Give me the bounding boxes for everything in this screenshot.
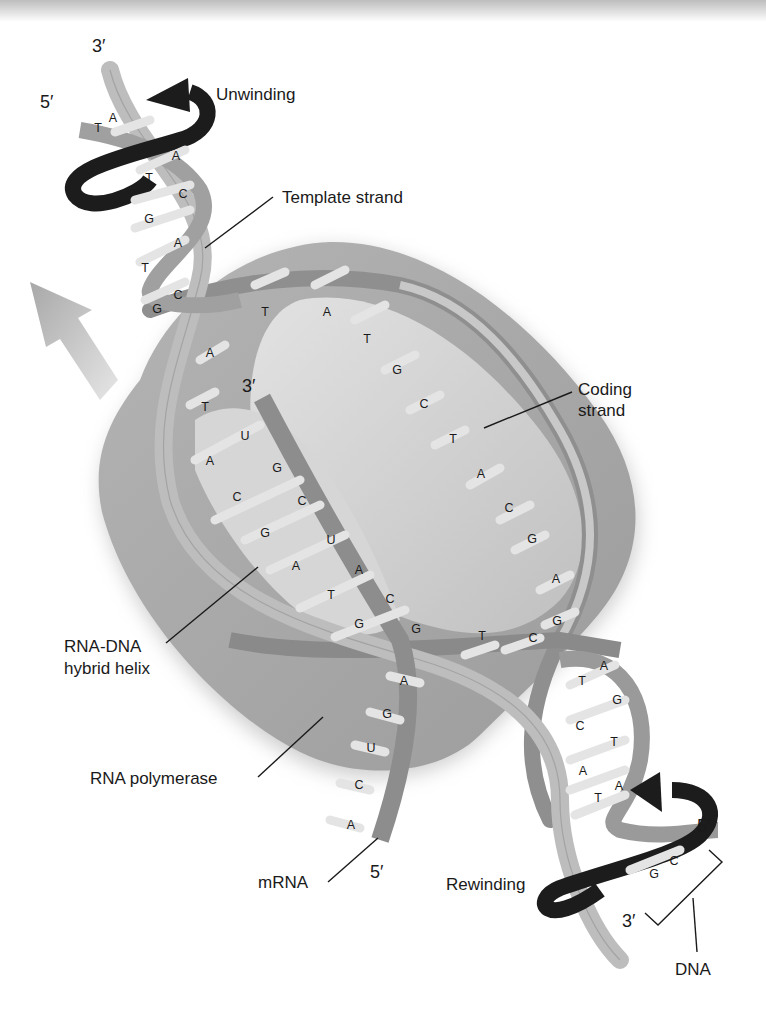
top-5prime-label: 5′ xyxy=(40,92,54,112)
svg-text:G: G xyxy=(272,461,282,475)
svg-text:T: T xyxy=(594,791,602,805)
svg-text:A: A xyxy=(109,111,118,125)
svg-text:C: C xyxy=(354,778,363,792)
svg-text:A: A xyxy=(172,149,181,163)
svg-text:G: G xyxy=(392,363,402,377)
unwinding-label: Unwinding xyxy=(216,85,295,104)
svg-text:U: U xyxy=(366,741,375,755)
svg-text:T: T xyxy=(449,432,457,446)
svg-text:A: A xyxy=(552,572,561,586)
svg-text:T: T xyxy=(610,735,618,749)
svg-text:T: T xyxy=(141,261,149,275)
svg-text:A: A xyxy=(400,674,409,688)
mrna-5prime-label: 5′ xyxy=(370,862,384,882)
svg-text:C: C xyxy=(385,592,394,606)
svg-text:G: G xyxy=(649,867,659,881)
svg-text:A: A xyxy=(477,467,486,481)
svg-text:G: G xyxy=(382,707,392,721)
svg-text:C: C xyxy=(504,501,513,515)
svg-text:G: G xyxy=(144,212,154,226)
coding-bottom-base: T xyxy=(478,629,486,643)
svg-text:G: G xyxy=(612,693,622,707)
svg-text:G: G xyxy=(527,532,537,546)
svg-text:C: C xyxy=(419,397,428,411)
rna-dna-hybrid-label-line2: hybrid helix xyxy=(64,659,150,678)
svg-text:A: A xyxy=(615,779,624,793)
svg-text:A: A xyxy=(206,346,215,360)
svg-text:A: A xyxy=(600,659,609,673)
template-strand-label: Template strand xyxy=(282,188,403,207)
svg-text:U: U xyxy=(240,429,249,443)
svg-text:G: G xyxy=(411,622,421,636)
rewinding-label: Rewinding xyxy=(446,875,525,894)
mrna-label: mRNA xyxy=(258,873,309,892)
bottom-5prime-label: 5′ xyxy=(697,816,711,836)
svg-text:C: C xyxy=(232,490,241,504)
svg-text:G: G xyxy=(354,617,364,631)
svg-text:G: G xyxy=(260,526,270,540)
transcription-diagram: T A A T C G A T C G T A T G C T A C G A … xyxy=(0,0,766,1014)
svg-text:C: C xyxy=(297,494,306,508)
svg-text:C: C xyxy=(528,631,537,645)
svg-text:A: A xyxy=(355,563,364,577)
svg-text:T: T xyxy=(94,121,102,135)
svg-text:T: T xyxy=(578,674,586,688)
svg-text:A: A xyxy=(347,818,356,832)
svg-text:U: U xyxy=(326,533,335,547)
svg-text:A: A xyxy=(579,764,588,778)
svg-text:T: T xyxy=(363,332,371,346)
direction-arrow-icon xyxy=(30,282,118,400)
svg-text:A: A xyxy=(292,559,301,573)
coding-strand-label-line1: Coding xyxy=(578,380,632,399)
bottom-3prime-label: 3′ xyxy=(622,911,636,931)
svg-text:T: T xyxy=(261,305,269,319)
svg-text:T: T xyxy=(327,588,335,602)
coding-strand-label-line2: strand xyxy=(578,401,625,420)
svg-text:A: A xyxy=(206,454,215,468)
svg-text:G: G xyxy=(552,614,562,628)
svg-text:G: G xyxy=(152,302,162,316)
svg-text:T: T xyxy=(145,171,153,185)
svg-text:A: A xyxy=(174,236,183,250)
svg-text:T: T xyxy=(201,400,209,414)
svg-text:A: A xyxy=(323,305,332,319)
svg-text:C: C xyxy=(669,854,678,868)
dna-label: DNA xyxy=(675,960,712,979)
rna-dna-hybrid-label-line1: RNA-DNA xyxy=(64,637,142,656)
svg-text:C: C xyxy=(575,719,584,733)
top-3prime-label: 3′ xyxy=(92,36,106,56)
rna-3prime-label: 3′ xyxy=(242,376,256,396)
rna-polymerase-label: RNA polymerase xyxy=(90,769,218,788)
svg-text:C: C xyxy=(173,288,182,302)
svg-text:C: C xyxy=(178,187,187,201)
